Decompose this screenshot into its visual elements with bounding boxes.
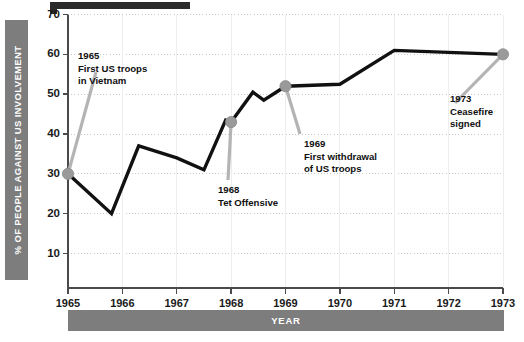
annotation-1969-line1: First withdrawal xyxy=(304,151,377,164)
annotation-1973-line2: signed xyxy=(450,118,493,131)
y-axis-tick-label: 30 xyxy=(34,168,60,180)
annotation-1973: 1973 Ceasefire signed xyxy=(450,93,493,131)
y-axis-tick-label: 10 xyxy=(34,248,60,260)
annotation-1973-line1: Ceasefire xyxy=(450,106,493,119)
x-axis-tick-label: 1967 xyxy=(150,298,204,309)
y-axis-tick-label: 40 xyxy=(34,128,60,140)
y-axis-tick-label: 20 xyxy=(34,208,60,220)
annotation-1968: 1968 Tet Offensive xyxy=(218,184,278,209)
y-axis-tick-label: 70 xyxy=(34,9,60,21)
annotation-1969: 1969 First withdrawal of US troops xyxy=(304,138,377,176)
annotation-1965-line1: First US troops xyxy=(78,63,147,76)
annotation-1965: 1965 First US troops in Vietnam xyxy=(78,50,147,88)
annotation-1969-year: 1969 xyxy=(304,138,377,151)
x-axis-tick-label: 1973 xyxy=(476,298,524,309)
x-axis-tick-label: 1970 xyxy=(313,298,367,309)
y-axis-tick-label: 60 xyxy=(34,48,60,60)
x-axis-tick-label: 1972 xyxy=(422,298,476,309)
x-axis-tick-label: 1966 xyxy=(95,298,149,309)
x-axis-tick-label: 1968 xyxy=(204,298,258,309)
annotation-1968-year: 1968 xyxy=(218,184,278,197)
x-axis-tick-label: 1965 xyxy=(41,298,95,309)
annotation-1965-line2: in Vietnam xyxy=(78,75,147,88)
y-axis-tick-label: 50 xyxy=(34,88,60,100)
x-axis-tick-label: 1969 xyxy=(259,298,313,309)
annotation-1965-year: 1965 xyxy=(78,50,147,63)
annotation-1973-year: 1973 xyxy=(450,93,493,106)
annotation-1968-line1: Tet Offensive xyxy=(218,197,278,210)
chart-figure: % OF PEOPLE AGAINST US INVOLVEMENT YEAR … xyxy=(0,0,524,342)
x-axis-tick-label: 1971 xyxy=(367,298,421,309)
annotation-1969-line2: of US troops xyxy=(304,163,377,176)
